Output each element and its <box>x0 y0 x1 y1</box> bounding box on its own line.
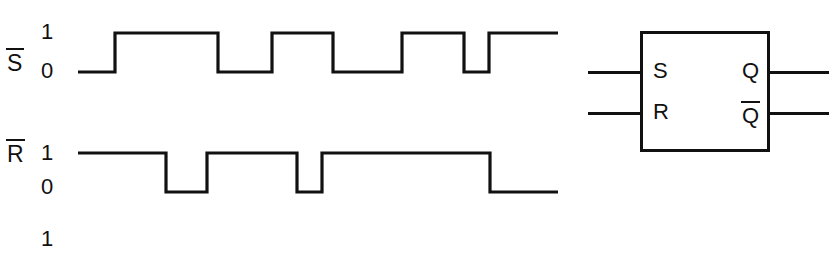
pin-label-q: Q <box>742 60 759 82</box>
pin-label-s: S <box>653 60 668 82</box>
input-wire-r <box>588 112 643 115</box>
output-wire-q <box>767 71 829 74</box>
input-wire-s <box>588 71 643 74</box>
pin-label-r: R <box>653 101 669 123</box>
timing-diagram-figure: S 1 0 R 1 0 1 S R Q Q <box>0 0 829 267</box>
q-level-label-high: 1 <box>41 228 53 250</box>
output-wire-q-bar <box>767 112 829 115</box>
q-bar-overline-text: Q <box>742 103 759 127</box>
pin-label-q-bar: Q <box>742 103 759 127</box>
latch-block-body <box>640 31 770 152</box>
waveform-r-bar-path <box>78 153 558 192</box>
